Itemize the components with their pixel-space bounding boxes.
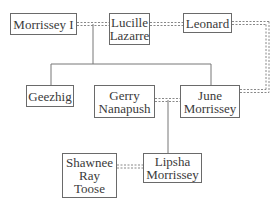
node-morrissey-i: Morrissey I xyxy=(10,13,77,35)
node-label: Toose xyxy=(74,182,105,195)
node-label: Morrissey xyxy=(184,102,237,115)
node-label: Lazarre xyxy=(110,29,150,42)
node-label: Morrissey xyxy=(146,168,199,181)
node-label: Geezhig xyxy=(28,90,71,103)
node-geezhig: Geezhig xyxy=(26,85,74,107)
node-lucille-lazarre: Lucille Lazarre xyxy=(109,13,150,45)
node-label: Leonard xyxy=(186,17,229,30)
node-june-morrissey: June Morrissey xyxy=(180,85,240,118)
node-label: Gerry xyxy=(109,89,139,102)
node-leonard: Leonard xyxy=(183,13,232,33)
node-gerry-nanapush: Gerry Nanapush xyxy=(94,85,155,118)
node-shawnee-ray-toose: Shawnee Ray Toose xyxy=(62,153,117,198)
node-label: June xyxy=(198,89,222,102)
node-lipsha-morrissey: Lipsha Morrissey xyxy=(143,153,202,183)
node-label: Nanapush xyxy=(99,102,151,115)
node-label: Morrissey I xyxy=(13,18,73,31)
